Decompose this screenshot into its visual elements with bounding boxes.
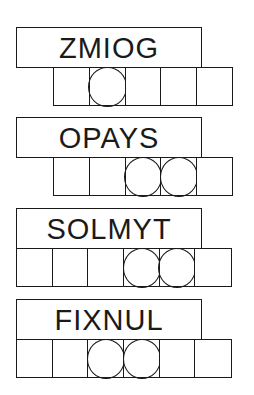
letter-cell[interactable] bbox=[196, 157, 233, 196]
circled-letter-cell[interactable] bbox=[160, 157, 197, 196]
letter-cell[interactable] bbox=[87, 248, 124, 287]
letter-cell[interactable] bbox=[16, 248, 53, 287]
circle-marker-icon bbox=[88, 67, 126, 107]
letter-cell[interactable] bbox=[16, 339, 53, 378]
answer-cells bbox=[16, 248, 232, 287]
letter-cell[interactable] bbox=[125, 67, 162, 106]
circle-marker-icon bbox=[158, 248, 196, 288]
puzzle-1: ZMIOG bbox=[16, 27, 240, 107]
letter-cell[interactable] bbox=[194, 339, 231, 378]
puzzle-3: SOLMYT bbox=[16, 208, 240, 288]
circled-letter-cell[interactable] bbox=[159, 248, 196, 287]
letter-cell[interactable] bbox=[53, 67, 90, 106]
answer-cells bbox=[53, 157, 233, 196]
circled-letter-cell[interactable] bbox=[123, 339, 160, 378]
letter-cell[interactable] bbox=[196, 67, 233, 106]
scrambled-word: OPAYS bbox=[16, 117, 202, 158]
scrambled-word: SOLMYT bbox=[16, 208, 202, 249]
letter-cell[interactable] bbox=[52, 339, 89, 378]
circle-marker-icon bbox=[123, 339, 161, 379]
letter-cell[interactable] bbox=[53, 157, 90, 196]
circle-marker-icon bbox=[160, 157, 198, 197]
letter-cell[interactable] bbox=[160, 67, 197, 106]
circle-marker-icon bbox=[87, 339, 125, 379]
scrambled-word: FIXNUL bbox=[16, 299, 202, 340]
answer-cells bbox=[16, 339, 232, 378]
circled-letter-cell[interactable] bbox=[125, 157, 162, 196]
circled-letter-cell[interactable] bbox=[89, 67, 126, 106]
circle-marker-icon bbox=[124, 157, 162, 197]
letter-cell[interactable] bbox=[159, 339, 196, 378]
circle-marker-icon bbox=[123, 248, 161, 288]
puzzle-4: FIXNUL bbox=[16, 299, 240, 379]
puzzle-2: OPAYS bbox=[16, 117, 240, 197]
circled-letter-cell[interactable] bbox=[123, 248, 160, 287]
circled-letter-cell[interactable] bbox=[87, 339, 124, 378]
letter-cell[interactable] bbox=[52, 248, 89, 287]
scrambled-word: ZMIOG bbox=[16, 27, 202, 68]
letter-cell[interactable] bbox=[194, 248, 231, 287]
letter-cell[interactable] bbox=[89, 157, 126, 196]
answer-cells bbox=[53, 67, 233, 106]
